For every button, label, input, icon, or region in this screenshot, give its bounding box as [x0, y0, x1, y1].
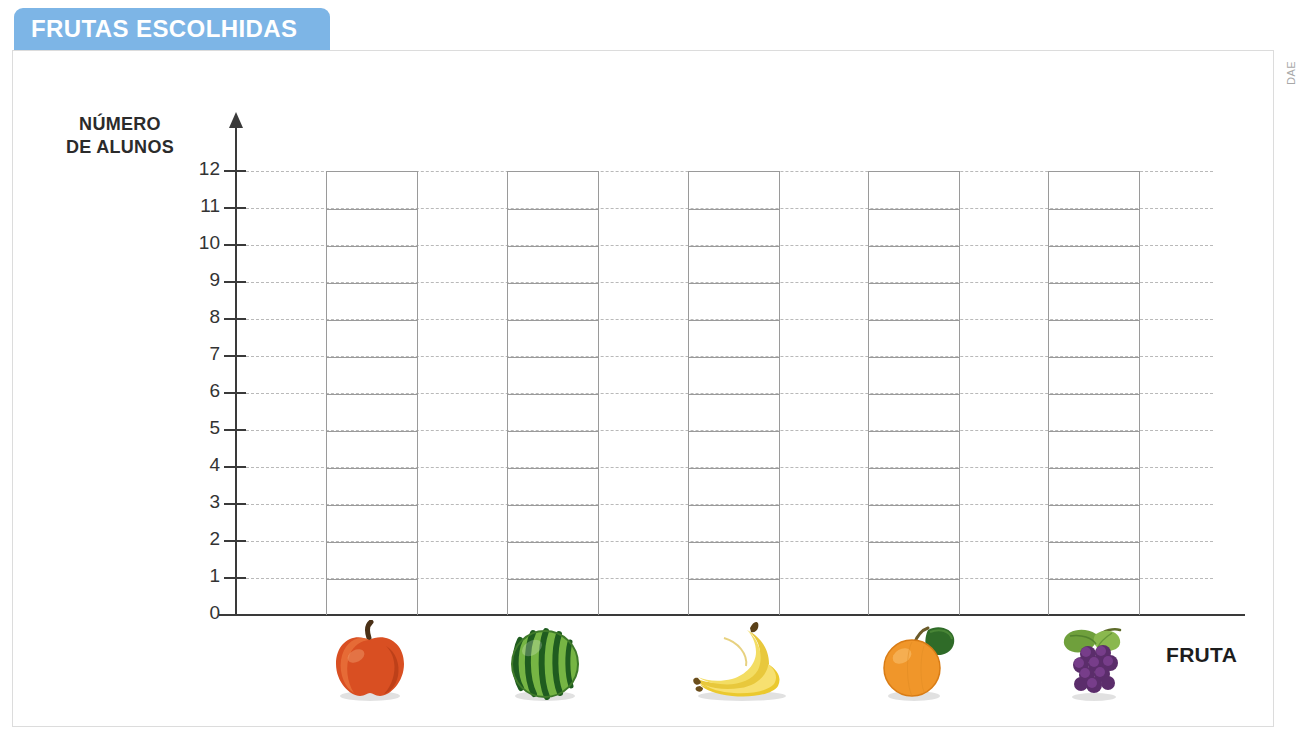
y-axis-title-line1: NÚMERO — [40, 113, 200, 136]
apple-icon — [314, 620, 424, 702]
chart-title: FRUTAS ESCOLHIDAS — [14, 15, 297, 43]
credit-label: DAE — [1268, 65, 1313, 85]
banana-icon — [672, 620, 812, 702]
y-axis-title: NÚMERO DE ALUNOS — [40, 113, 200, 159]
x-axis-title: FRUTA — [1166, 643, 1237, 667]
chart-title-banner: FRUTAS ESCOLHIDAS — [14, 8, 330, 50]
watermelon-icon — [490, 620, 600, 702]
y-axis-title-line2: DE ALUNOS — [40, 136, 200, 159]
orange-icon — [862, 620, 972, 702]
grapes-icon — [1040, 620, 1150, 702]
